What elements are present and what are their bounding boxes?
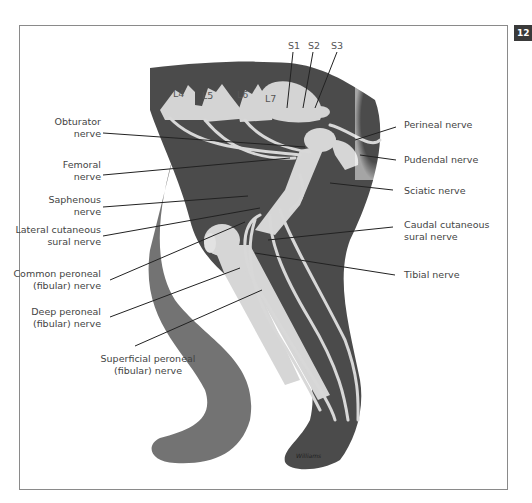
label-superficial-peroneal-nerve: Superficial peroneal (fibular) nerve [88, 353, 208, 377]
vertebra-label-l5: L5 [202, 90, 213, 101]
limb-illustration [0, 0, 532, 503]
label-deep-peroneal-nerve: Deep peroneal (fibular) nerve [31, 306, 101, 330]
label-common-peroneal-nerve: Common peroneal (fibular) nerve [13, 268, 101, 292]
sacral-label-s2: S2 [308, 40, 320, 51]
label-caudal-cutaneous-sural-nerve: Caudal cutaneous sural nerve [404, 219, 489, 243]
label-femoral-nerve: Femoral nerve [63, 159, 101, 183]
label-saphenous-nerve: Saphenous nerve [48, 194, 101, 218]
vertebra-label-l4: L4 [173, 88, 184, 99]
label-lateral-cutaneous-sural-nerve: Lateral cutaneous sural nerve [15, 224, 101, 248]
label-sciatic-nerve: Sciatic nerve [404, 185, 466, 197]
vertebra-label-l6: L6 [237, 89, 248, 100]
label-obturator-nerve: Obturator nerve [55, 116, 101, 140]
label-tibial-nerve: Tibial nerve [404, 269, 460, 281]
label-perineal-nerve: Perineal nerve [404, 119, 472, 131]
sacral-label-s3: S3 [331, 40, 343, 51]
vertebra-label-l7: L7 [265, 93, 276, 104]
artist-signature: Williams [296, 452, 321, 459]
label-pudendal-nerve: Pudendal nerve [404, 154, 478, 166]
sacral-label-s1: S1 [288, 40, 300, 51]
